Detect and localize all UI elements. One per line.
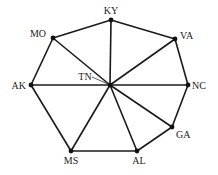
edge-mo-ak [31, 38, 53, 85]
label-mo: MO [30, 28, 46, 39]
edge-ak-ms [31, 85, 71, 151]
edge-ky-va [111, 20, 175, 39]
node-ga [170, 125, 175, 130]
edge-ga-al [137, 127, 172, 151]
node-al [135, 149, 140, 154]
node-va [173, 37, 178, 42]
edge-va-nc [175, 39, 188, 85]
node-ak [29, 83, 34, 88]
label-al: AL [132, 155, 145, 166]
label-va: VA [180, 30, 194, 41]
label-nc: NC [192, 80, 206, 91]
label-ky: KY [104, 5, 118, 16]
state-graph-diagram: KYMOVAAKNCTNGAMSAL [0, 0, 218, 175]
edge-nc-ga [172, 85, 188, 127]
edge-va-tn [110, 39, 175, 85]
label-ak: AK [12, 80, 27, 91]
node-tn [108, 83, 113, 88]
node-nc [186, 83, 191, 88]
edge-ky-mo [53, 20, 111, 38]
node-ms [69, 149, 74, 154]
node-ky [109, 18, 114, 23]
edge-ky-tn [110, 20, 111, 85]
label-ms: MS [64, 155, 78, 166]
label-ga: GA [176, 129, 191, 140]
edge-tn-ms [71, 85, 110, 151]
node-mo [51, 36, 56, 41]
label-tn: TN [78, 71, 91, 82]
